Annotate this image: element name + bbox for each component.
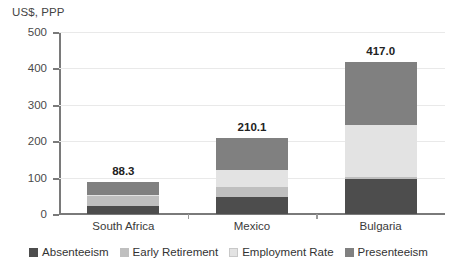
x-tick-mark xyxy=(188,214,190,219)
y-tick-label: 400 xyxy=(0,62,47,74)
bar-segment-early-retirement[interactable] xyxy=(345,177,417,180)
bar-total-label: 417.0 xyxy=(366,45,395,57)
legend-item[interactable]: Employment Rate xyxy=(229,246,333,258)
legend-label: Presenteeism xyxy=(358,246,428,258)
bar-segment-absenteeism[interactable] xyxy=(216,197,288,214)
y-tick-mark xyxy=(53,214,59,216)
legend-swatch-early-retirement xyxy=(120,248,129,257)
legend-item[interactable]: Presenteeism xyxy=(345,246,428,258)
bar-group[interactable]: 210.1 xyxy=(216,32,288,214)
plot-area: 88.3210.1417.0 xyxy=(59,32,445,214)
bar-segment-employment-rate[interactable] xyxy=(216,170,288,187)
legend-swatch-employment-rate xyxy=(229,248,238,257)
bar-segment-employment-rate[interactable] xyxy=(87,195,159,196)
legend-swatch-absenteeism xyxy=(29,248,38,257)
y-tick-label: 500 xyxy=(0,26,47,38)
x-tick-mark xyxy=(316,214,318,219)
category-label: Bulgaria xyxy=(360,220,402,232)
bar-segment-presenteeism[interactable] xyxy=(87,182,159,195)
y-tick-label: 200 xyxy=(0,135,47,147)
bar-total-label: 88.3 xyxy=(112,165,134,177)
legend-label: Absenteeism xyxy=(42,246,108,258)
bar-group[interactable]: 417.0 xyxy=(345,32,417,214)
stacked-bar-chart: US$, PPP 0100200300400500 88.3210.1417.0… xyxy=(0,0,457,268)
legend-swatch-presenteeism xyxy=(345,248,354,257)
bar-segment-early-retirement[interactable] xyxy=(216,187,288,196)
legend-item[interactable]: Absenteeism xyxy=(29,246,108,258)
category-label: South Africa xyxy=(92,220,154,232)
bar-group[interactable]: 88.3 xyxy=(87,32,159,214)
bar-segment-employment-rate[interactable] xyxy=(345,125,417,177)
legend-item[interactable]: Early Retirement xyxy=(120,246,219,258)
legend-label: Early Retirement xyxy=(133,246,219,258)
y-axis-title: US$, PPP xyxy=(12,6,65,18)
chart-legend: AbsenteeismEarly RetirementEmployment Ra… xyxy=(0,246,457,258)
bar-segment-presenteeism[interactable] xyxy=(216,138,288,170)
y-tick-label: 100 xyxy=(0,172,47,184)
y-tick-label: 0 xyxy=(0,208,47,220)
bar-segment-absenteeism[interactable] xyxy=(345,179,417,214)
legend-label: Employment Rate xyxy=(242,246,333,258)
bar-segment-presenteeism[interactable] xyxy=(345,62,417,125)
bar-total-label: 210.1 xyxy=(238,121,267,133)
bar-segment-absenteeism[interactable] xyxy=(87,206,159,214)
y-tick-label: 300 xyxy=(0,99,47,111)
category-label: Mexico xyxy=(234,220,270,232)
bar-segment-early-retirement[interactable] xyxy=(87,196,159,206)
